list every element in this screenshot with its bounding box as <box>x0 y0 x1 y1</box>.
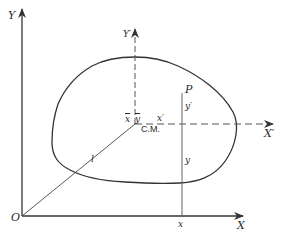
x-prime-label: x′ <box>157 114 164 123</box>
y-prime-label: y′ <box>185 102 192 111</box>
x-axis-label: X <box>237 220 245 231</box>
y-prime-axis-label: Y′ <box>123 30 131 39</box>
distance-line-l <box>22 124 135 216</box>
y-coord-label: y <box>185 156 190 165</box>
rigid-body-outline <box>52 57 237 183</box>
point-p-label: P <box>185 84 192 95</box>
x-bar-label: x <box>125 115 130 124</box>
x-coord-label: x <box>178 220 183 229</box>
origin-label: O <box>11 212 20 223</box>
x-prime-axis-label: X′ <box>264 128 274 139</box>
diagram-drawing <box>0 0 288 237</box>
y-bar-label: y <box>135 115 140 124</box>
distance-l-label: l <box>91 155 94 164</box>
y-axis-label: Y <box>8 10 15 21</box>
diagram-canvas: Y X O Y′ X′ x y C.M. x′ P y′ y x l <box>0 0 288 237</box>
center-of-mass-label: C.M. <box>141 125 160 134</box>
